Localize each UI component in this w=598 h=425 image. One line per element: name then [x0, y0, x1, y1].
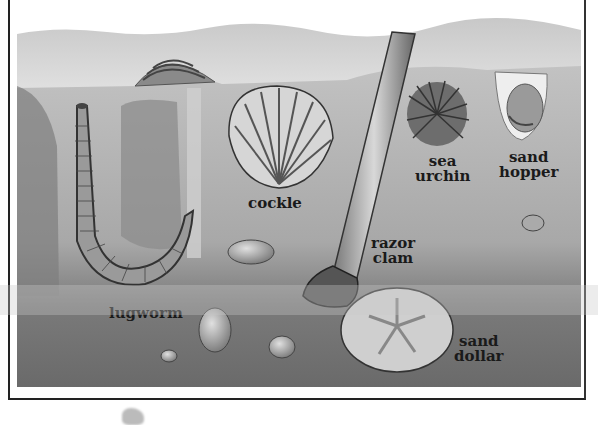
label-razor-clam-line2: clam — [371, 251, 415, 266]
bottom-smudge — [122, 408, 144, 425]
label-sea-urchin: sea urchin — [415, 154, 470, 184]
label-sea-urchin-line2: urchin — [415, 169, 470, 184]
label-sand-hopper-line2: hopper — [499, 165, 558, 180]
label-sand-dollar-line2: dollar — [454, 349, 504, 364]
label-cockle: cockle — [248, 196, 302, 211]
label-sand-dollar: sand dollar — [454, 334, 504, 364]
label-cockle-text: cockle — [248, 194, 302, 212]
scan-band-overlay — [0, 285, 598, 315]
label-razor-clam: razor clam — [371, 236, 415, 266]
label-sand-hopper: sand hopper — [499, 150, 558, 180]
illustration: cockle sea urchin sand hopper razor clam… — [17, 16, 581, 387]
